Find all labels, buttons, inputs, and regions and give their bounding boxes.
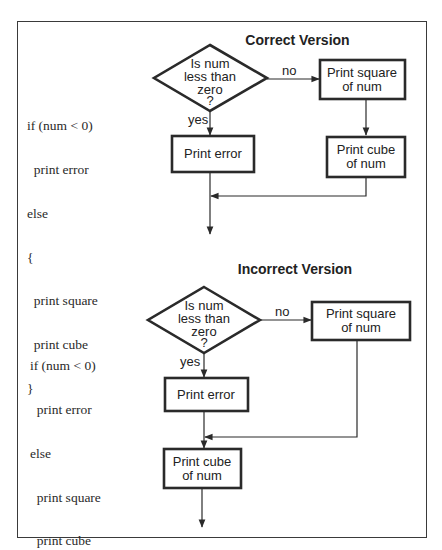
svg-text:?: ? <box>200 335 207 350</box>
box-text: Print square <box>326 306 396 321</box>
box-text: Print error <box>177 387 235 402</box>
decision-text: ? <box>200 335 207 350</box>
no-label: no <box>282 63 296 78</box>
merge-arrow <box>211 177 366 196</box>
box-text: of num <box>342 79 382 94</box>
flowchart-canvas: Is num less than zero ? no yes Print squ… <box>0 0 442 550</box>
correct-flowchart: Is num less than zero ? no yes Print squ… <box>154 45 405 234</box>
incorrect-flowchart: Is num less than zero ? no yes Print squ… <box>148 287 410 527</box>
box-text: Print error <box>184 146 242 161</box>
no-label: no <box>275 304 289 319</box>
box-text: of num <box>346 156 386 171</box>
box-text: of num <box>182 468 222 483</box>
box-text: of num <box>341 320 381 335</box>
box-text: Print cube <box>337 142 396 157</box>
yes-label: yes <box>188 112 209 127</box>
svg-text:?: ? <box>206 93 213 108</box>
decision-text: ? <box>206 93 213 108</box>
box-text: Print cube <box>173 454 232 469</box>
yes-label: yes <box>180 354 201 369</box>
box-text: Print square <box>327 65 397 80</box>
